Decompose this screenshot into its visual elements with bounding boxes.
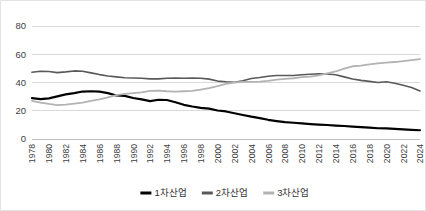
y-axis-tick-label: 40 <box>15 77 26 88</box>
x-axis-tick-label: 2004 <box>247 144 257 163</box>
x-axis-tick-label: 1984 <box>78 144 88 163</box>
series-line <box>32 71 420 91</box>
x-axis-tick-label: 1980 <box>44 144 54 163</box>
y-axis-tick-label: 60 <box>15 49 26 60</box>
x-axis-tick-label: 2014 <box>331 144 341 163</box>
x-axis-tick-label: 2002 <box>230 144 240 163</box>
x-axis-tick-label: 1982 <box>61 144 71 163</box>
legend-item[interactable]: 1차산업 <box>140 187 186 198</box>
x-axis-tick-label: 1978 <box>27 144 37 163</box>
x-axis-tick-label: 2000 <box>213 144 223 163</box>
x-axis-tick-label: 2016 <box>348 144 358 163</box>
legend-item[interactable]: 3차산업 <box>263 187 309 198</box>
x-axis-tick-label: 1998 <box>196 144 206 163</box>
x-axis-tick-label: 1986 <box>95 144 105 163</box>
chart-container: 020406080 197819801982198419861988199019… <box>0 0 426 211</box>
x-axis-tick-label: 1990 <box>129 144 139 163</box>
y-axis-labels: 020406080 <box>15 20 26 144</box>
line-chart: 020406080 197819801982198419861988199019… <box>1 1 426 211</box>
legend-item[interactable]: 2차산업 <box>202 187 248 198</box>
x-axis-tick-label: 2022 <box>399 144 409 163</box>
x-axis-tick-label: 1996 <box>179 144 189 163</box>
legend-label: 1차산업 <box>154 187 186 198</box>
x-axis-tick-label: 2010 <box>297 144 307 163</box>
series-lines <box>32 59 420 130</box>
x-axis-tick-label: 2006 <box>264 144 274 163</box>
x-axis-tick-label: 2024 <box>415 144 425 163</box>
chart-legend: 1차산업2차산업3차산업 <box>140 187 309 198</box>
x-axis-tick-label: 2018 <box>365 144 375 163</box>
y-axis-tick-label: 80 <box>15 20 26 31</box>
x-axis-tick-label: 1994 <box>162 144 172 163</box>
x-axis-tick-label: 2012 <box>314 144 324 163</box>
x-axis-tick-label: 2020 <box>382 144 392 163</box>
x-axis-tick-label: 1992 <box>145 144 155 163</box>
y-axis-tick-label: 0 <box>21 133 26 144</box>
x-axis-tick-label: 1988 <box>112 144 122 163</box>
x-axis-labels: 1978198019821984198619881990199219941996… <box>27 144 425 163</box>
y-axis-tick-label: 20 <box>15 105 26 116</box>
x-axis-tick-label: 2008 <box>280 144 290 163</box>
legend-label: 3차산업 <box>277 187 309 198</box>
legend-label: 2차산업 <box>216 187 248 198</box>
